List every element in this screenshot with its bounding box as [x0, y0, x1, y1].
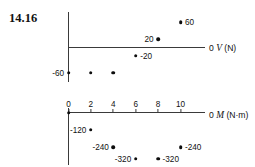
data-point — [112, 146, 116, 150]
data-point-label: -240 — [92, 143, 108, 152]
data-point-label: -240 — [185, 143, 201, 152]
data-point-label: -320 — [115, 154, 131, 163]
data-point-label: 20 — [144, 35, 153, 44]
data-point — [89, 128, 93, 132]
x-tick-mark — [90, 109, 91, 112]
x-tick-label: 2 — [89, 100, 94, 109]
data-point-label: -120 — [70, 125, 86, 134]
data-point — [179, 146, 183, 150]
axis-unit-label: (N·m) — [226, 110, 248, 120]
data-point — [156, 37, 160, 41]
x-tick-label: 0 — [66, 100, 71, 109]
x-tick-mark — [135, 109, 136, 112]
axis-variable-symbol: V — [216, 43, 222, 53]
data-point-label: -320 — [163, 154, 179, 163]
data-point-label: -60 — [52, 68, 64, 77]
x-tick-label: 4 — [111, 100, 116, 109]
x-tick-label: 8 — [156, 100, 161, 109]
horizontal-axis — [69, 47, 206, 48]
axis-variable-symbol: M — [216, 110, 224, 120]
data-point — [134, 54, 138, 58]
figure-container: 14.16 -60-2020600 V (N) 0246810-120-240-… — [0, 0, 255, 167]
axis-zero-label: 0 — [209, 110, 214, 120]
vertical-axis — [68, 108, 69, 165]
problem-number-label: 14.16 — [9, 11, 37, 26]
data-point — [67, 111, 71, 115]
data-point-label: -20 — [140, 51, 152, 60]
axis-unit-label: (N) — [224, 43, 236, 53]
data-point-label: 60 — [185, 18, 194, 27]
data-point — [112, 71, 116, 75]
x-tick-mark — [113, 109, 114, 112]
axis-caption: 0 V (N) — [209, 43, 236, 53]
data-point — [156, 157, 160, 161]
x-tick-label: 10 — [176, 100, 185, 109]
horizontal-axis — [69, 112, 206, 113]
x-tick-mark — [180, 109, 181, 112]
axis-zero-label: 0 — [209, 43, 214, 53]
data-point — [89, 71, 93, 75]
x-tick-mark — [158, 109, 159, 112]
axis-caption: 0 M (N·m) — [209, 110, 248, 120]
x-tick-label: 6 — [133, 100, 138, 109]
data-point — [179, 21, 183, 25]
data-point — [134, 157, 138, 161]
data-point — [67, 71, 71, 75]
